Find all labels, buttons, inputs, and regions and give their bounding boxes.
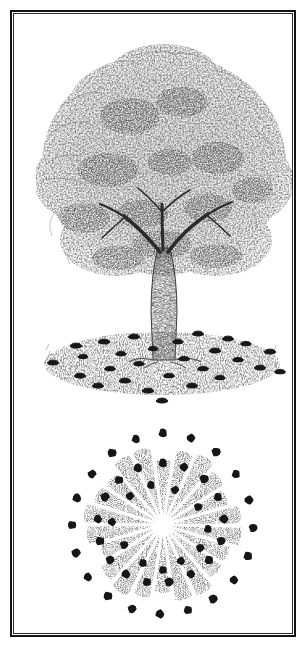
mushroom-cap-top bbox=[165, 373, 173, 376]
mushroom-cap-top bbox=[234, 357, 242, 360]
ground-mound bbox=[40, 328, 288, 400]
canopy-vein bbox=[163, 525, 240, 527]
mushroom-cap-top bbox=[158, 397, 167, 401]
mushroom-dot bbox=[96, 537, 105, 545]
illustration-figure bbox=[0, 0, 306, 647]
mushroom-cap-top bbox=[79, 354, 87, 357]
mushroom-cap-top bbox=[276, 369, 284, 372]
mushroom-cap-top bbox=[94, 383, 103, 386]
mushroom-dot bbox=[104, 592, 113, 600]
mushroom-cap-top bbox=[149, 346, 157, 349]
mushroom-cap-top bbox=[130, 334, 139, 337]
elevation-drawing bbox=[12, 12, 298, 412]
mushroom-cap-top bbox=[121, 377, 130, 381]
mushroom-cap-top bbox=[72, 342, 81, 346]
mushroom-cap-top bbox=[242, 341, 250, 344]
mushroom-cap-top bbox=[256, 365, 265, 368]
mushroom-dot bbox=[68, 521, 76, 529]
mushroom-cap-top bbox=[224, 336, 233, 339]
plan-drawing bbox=[12, 412, 298, 639]
mushroom-cap-top bbox=[199, 366, 207, 369]
mushroom-cap-top bbox=[174, 339, 182, 342]
mushroom-cap-top bbox=[49, 360, 58, 363]
mushroom-cap-top bbox=[76, 373, 85, 376]
canopy-vein bbox=[85, 523, 163, 525]
tree-plan-view bbox=[12, 412, 298, 639]
figure-frame bbox=[10, 10, 296, 637]
mushroom-cap-top bbox=[144, 387, 153, 391]
mushroom-cap-top bbox=[216, 375, 224, 378]
mushroom-cap-top bbox=[100, 338, 109, 342]
mushroom-cap-top bbox=[135, 361, 143, 364]
mushroom-cap-top bbox=[188, 383, 197, 386]
mushroom-cap-top bbox=[211, 347, 220, 351]
mushroom-dot bbox=[115, 476, 123, 484]
mushroom-cap-top bbox=[180, 356, 188, 359]
mushroom-cap-top bbox=[117, 351, 125, 354]
mushroom-cap-top bbox=[106, 366, 114, 369]
mushroom-dot bbox=[108, 449, 117, 457]
mushroom-cap-top bbox=[266, 348, 275, 352]
mushroom-cap-top bbox=[194, 331, 203, 334]
tree-elevation-view bbox=[12, 12, 298, 412]
